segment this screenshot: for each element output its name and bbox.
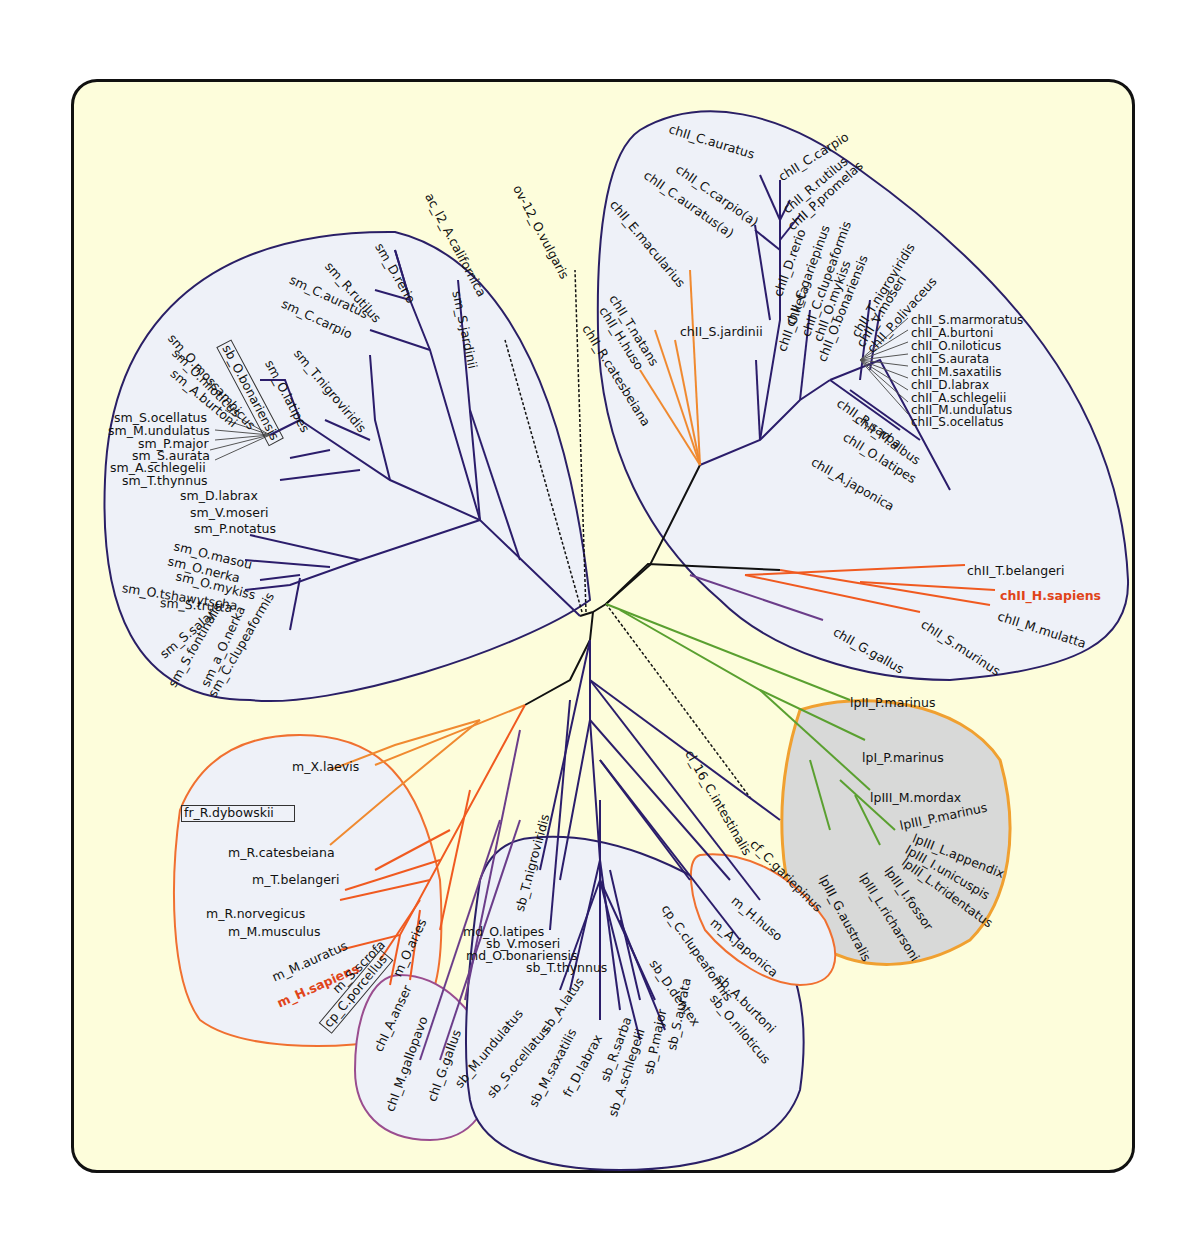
leaf-label: m_T.belangeri [252, 874, 339, 887]
leaf-label: lpIII_M.mordax [870, 792, 961, 805]
leaf-label-boxed: fr_R.dybowskii [181, 805, 295, 822]
leaf-label: chII_T.belangeri [967, 565, 1064, 578]
leaf-label: lpI_P.marinus [862, 752, 944, 765]
leaf-label: chII_S.marmoratus [911, 314, 1023, 326]
leaf-label: sm_D.labrax [180, 490, 258, 503]
leaf-label: m_X.laevis [292, 761, 359, 774]
leaf-label: sb_T.thynnus [526, 962, 607, 975]
leaf-label: chII_D.labrax [911, 379, 989, 391]
leaf-label: sm_T.thynnus [122, 475, 208, 488]
leaf-label: chII_S.aurata [911, 353, 989, 365]
leaf-label: m_R.catesbeiana [228, 847, 335, 860]
leaf-label: chII_A.burtoni [911, 327, 993, 339]
leaf-label: m_M.musculus [228, 926, 321, 939]
leaf-label-highlight: chII_H.sapiens [1000, 590, 1101, 603]
leaf-label: chII_S.ocellatus [911, 416, 1004, 428]
leaf-label: chII_M.saxatilis [911, 366, 1001, 378]
leaf-label: chII_S.jardinii [680, 326, 763, 339]
leaf-label: lpII_P.marinus [850, 697, 935, 710]
leaf-label: chII_O.niloticus [911, 340, 1001, 352]
leaf-label: m_R.norvegicus [206, 908, 305, 921]
leaf-label: sm_V.moseri [190, 507, 269, 520]
leaf-label: sm_P.notatus [194, 523, 276, 536]
